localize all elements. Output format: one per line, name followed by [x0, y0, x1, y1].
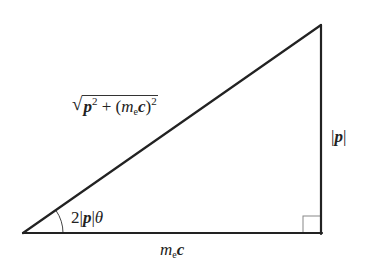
plus-open-paren: + (: [97, 97, 121, 116]
angle-label: 2|p|θ: [71, 209, 103, 226]
angle-arc: [56, 211, 63, 234]
vertical-side-label: |p|: [331, 128, 346, 145]
base-label: mec: [160, 241, 184, 258]
hypotenuse-line: [23, 25, 321, 233]
hypotenuse-label: √ p2 + (mec)2: [72, 94, 158, 115]
right-angle-marker: [303, 216, 321, 233]
mass-symbol: m: [160, 240, 172, 259]
exponent: 2: [151, 95, 157, 107]
mass-symbol: m: [121, 97, 133, 116]
abs-bar-right: |: [343, 127, 346, 146]
sqrt-symbol: √: [72, 94, 82, 113]
theta-symbol: θ: [95, 208, 103, 227]
radicand: p2 + (mec)2: [82, 95, 157, 115]
momentum-symbol: p: [334, 127, 343, 146]
triangle-diagram: [0, 0, 377, 276]
speed-of-light-symbol: c: [177, 240, 185, 259]
coefficient: 2: [71, 208, 80, 227]
momentum-symbol: p: [83, 97, 92, 116]
